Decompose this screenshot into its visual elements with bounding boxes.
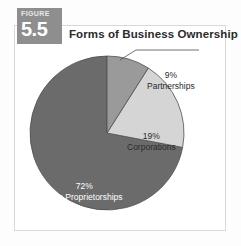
- pie-label-partnerships: 9% Partnerships: [147, 70, 195, 92]
- pie-chart: 9% Partnerships 19% Corporations 72% Sol…: [14, 25, 226, 231]
- figure-badge-number: 5.5: [21, 18, 62, 40]
- figure-title: Forms of Business Ownership: [69, 28, 238, 40]
- figure-container: FIGURE 5.5 Forms of Business Ownership 9…: [0, 0, 241, 246]
- figure-badge-word: FIGURE: [21, 10, 62, 18]
- pie-label-partnerships-name: Partnerships: [147, 81, 195, 92]
- partnerships-leader-line: [120, 50, 199, 60]
- pie-label-partnerships-percent: 9%: [147, 70, 195, 81]
- pie-label-corporations-percent: 19%: [127, 131, 176, 142]
- pie-label-sole-proprietorships-name: Sole Proprietorships: [46, 192, 123, 203]
- pie-label-sole-proprietorships: 72% Sole Proprietorships: [46, 181, 123, 203]
- pie-label-sole-proprietorships-percent: 72%: [46, 181, 123, 192]
- pie-label-corporations: 19% Corporations: [127, 131, 176, 153]
- figure-badge: FIGURE 5.5: [17, 8, 62, 44]
- pie-label-corporations-name: Corporations: [127, 142, 176, 153]
